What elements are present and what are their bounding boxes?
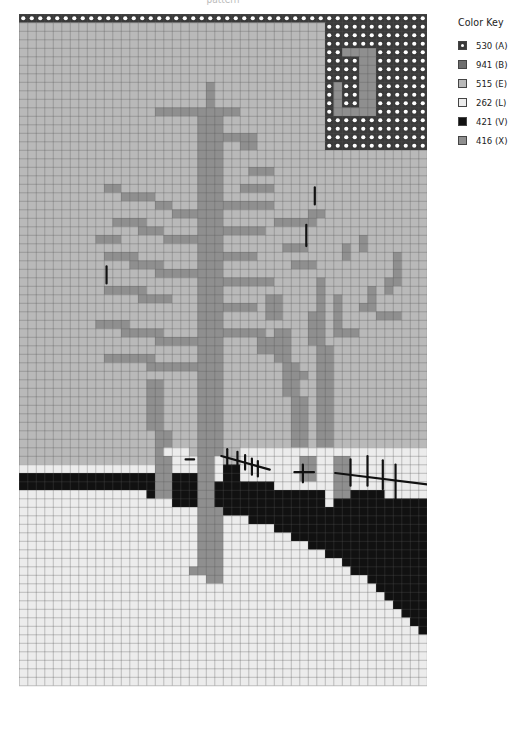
legend-label: 416 (X) xyxy=(476,135,508,146)
legend-title: Color Key xyxy=(458,16,518,28)
legend-label: 262 (L) xyxy=(476,97,506,108)
legend-item-515: 515 (E) xyxy=(458,74,518,93)
legend-label: 421 (V) xyxy=(476,116,508,127)
legend-label: 530 (A) xyxy=(476,40,508,51)
pattern-canvas xyxy=(19,14,427,689)
legend-item-941: 941 (B) xyxy=(458,55,518,74)
legend-item-262: 262 (L) xyxy=(458,93,518,112)
legend-label: 515 (E) xyxy=(476,78,507,89)
cross-stitch-pattern-grid xyxy=(19,14,427,689)
swatch-icon-262 xyxy=(458,98,467,107)
swatch-icon-515 xyxy=(458,79,467,88)
page-caption: pattern xyxy=(0,0,446,5)
swatch-icon-416 xyxy=(458,136,467,145)
swatch-icon-421 xyxy=(458,117,467,126)
legend-item-416: 416 (X) xyxy=(458,131,518,150)
legend-item-530: 530 (A) xyxy=(458,36,518,55)
legend-item-421: 421 (V) xyxy=(458,112,518,131)
swatch-icon-941 xyxy=(458,60,467,69)
legend-label: 941 (B) xyxy=(476,59,508,70)
color-key-legend: Color Key 530 (A) 941 (B) 515 (E) 262 (L… xyxy=(458,16,518,150)
swatch-icon-530 xyxy=(458,41,467,50)
